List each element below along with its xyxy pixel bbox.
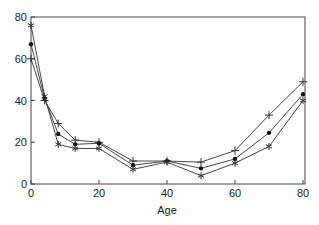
dot-marker-icon xyxy=(29,42,33,46)
chart-container: 020406080 020406080 Age xyxy=(0,0,319,225)
y-tick-label: 40 xyxy=(15,95,27,107)
dot-marker-icon xyxy=(301,92,305,96)
data-series xyxy=(27,22,307,179)
series-star-marker xyxy=(28,22,306,179)
series-plus-marker xyxy=(27,55,307,166)
star-marker-icon xyxy=(232,160,238,167)
y-tick-label: 60 xyxy=(15,53,27,65)
star-marker-icon xyxy=(28,22,34,29)
dot-marker-icon xyxy=(97,141,101,145)
dot-marker-icon xyxy=(199,166,203,170)
x-tick-label: 40 xyxy=(161,187,173,199)
y-tick-label: 80 xyxy=(15,11,27,23)
plus-marker-icon xyxy=(197,158,205,166)
x-tick-label: 20 xyxy=(93,187,105,199)
x-axis-ticks: 020406080 xyxy=(28,180,309,199)
series-dot-marker xyxy=(29,42,305,171)
dot-marker-icon xyxy=(56,132,60,136)
y-tick-label: 20 xyxy=(15,136,27,148)
x-axis-label: Age xyxy=(157,204,177,216)
y-axis-ticks: 020406080 xyxy=(15,11,35,190)
star-marker-icon xyxy=(198,172,204,179)
plot-frame xyxy=(31,17,305,184)
dot-marker-icon xyxy=(267,131,271,135)
x-tick-label: 0 xyxy=(28,187,34,199)
x-tick-label: 60 xyxy=(229,187,241,199)
x-tick-label: 80 xyxy=(297,187,309,199)
y-tick-label: 0 xyxy=(21,178,27,190)
line-chart: 020406080 020406080 Age xyxy=(0,0,319,225)
star-marker-icon xyxy=(55,141,61,148)
